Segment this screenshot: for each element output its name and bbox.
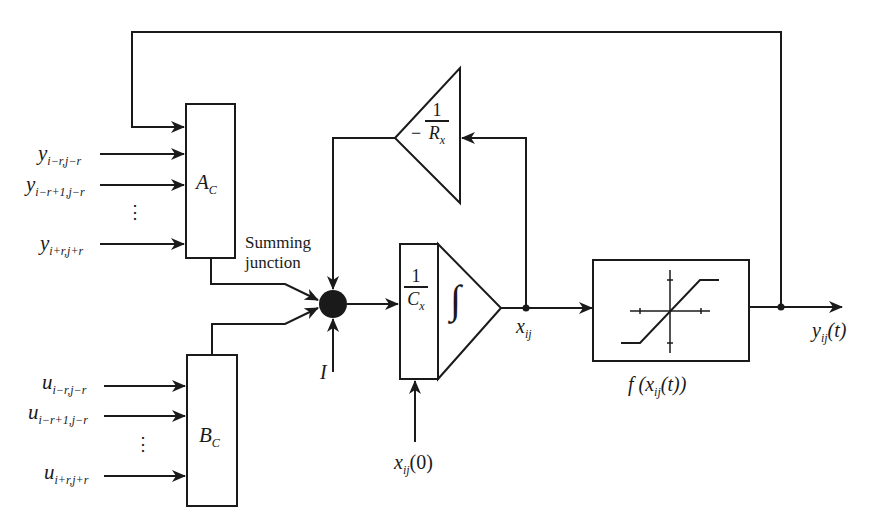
integrator-triangle <box>438 244 501 379</box>
integral-icon: ∫ <box>450 280 461 320</box>
bias-label: I <box>320 362 327 382</box>
b-template-label: BC <box>199 425 220 449</box>
b-to-sum-line <box>212 308 318 355</box>
block-diagram-canvas <box>0 0 871 531</box>
input-label-y2: yi−r+1,j−r <box>26 174 85 198</box>
nonlinearity-label: f (xij(t)) <box>628 374 686 398</box>
feedback-gain-sign: − <box>411 124 421 142</box>
capacitance-fraction: 1 Cx <box>404 266 428 316</box>
a-template-label: AC <box>196 172 217 196</box>
output-node-dot <box>778 304 785 311</box>
state-node-dot <box>523 305 530 312</box>
input-label-y1: yi−r,j−r <box>38 143 81 167</box>
summing-junction <box>319 290 347 318</box>
input-label-y3: yi+r,j+r <box>40 233 83 257</box>
input-ellipsis-u: ⋮ <box>134 435 152 453</box>
initial-state-label: xij(0) <box>394 452 433 476</box>
input-label-u3: ui+r,j+r <box>44 462 88 486</box>
input-label-u1: ui−r,j−r <box>42 372 86 396</box>
gain-to-sum-line <box>333 138 395 289</box>
output-label: yij(t) <box>812 320 846 344</box>
state-label: xij <box>516 316 532 340</box>
input-ellipsis-y: ⋮ <box>126 203 144 221</box>
input-label-u2: ui−r+1,j−r <box>28 402 88 426</box>
feedback-gain-fraction: 1 Rx <box>425 100 449 150</box>
summing-junction-label: Summingjunction <box>245 233 311 273</box>
